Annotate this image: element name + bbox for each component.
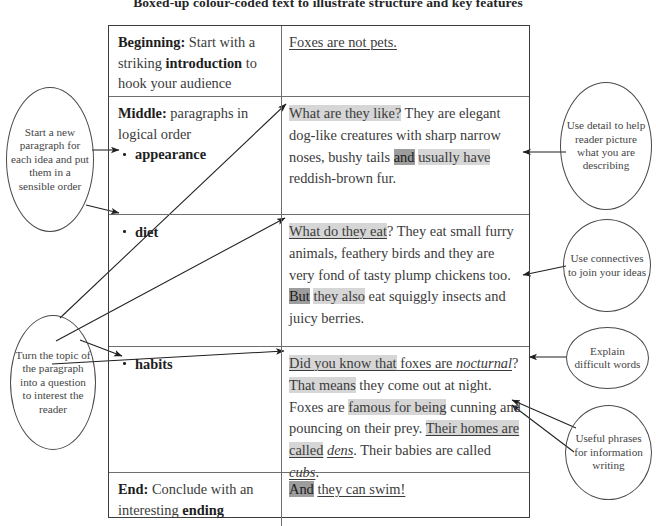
text-segment: Did you know that xyxy=(289,355,397,371)
callout-text: Useful phrases for information writing xyxy=(566,432,651,472)
segments-habits: Did you know that foxes are nocturnal? T… xyxy=(289,355,521,480)
label-rich-end: End: Conclude with an interesting ending xyxy=(118,481,254,518)
row-text-diet: What do they eat? They eat small furry a… xyxy=(282,215,529,346)
table-row: habits Did you know that foxes are noctu… xyxy=(109,347,529,473)
callout-turn-topic-into-question: Turn the topic of the paragraph into a q… xyxy=(10,315,96,450)
text-segment: Foxes are not pets. xyxy=(289,34,397,50)
text-segment: And xyxy=(289,481,314,497)
callout-text: Turn the topic of the paragraph into a q… xyxy=(11,349,95,416)
row-label-end: End: Conclude with an interesting ending xyxy=(109,473,282,526)
table-row: End: Conclude with an interesting ending… xyxy=(109,473,529,526)
row-text-end: And they can swim! xyxy=(282,473,529,526)
segments-beginning: Foxes are not pets. xyxy=(289,34,397,50)
label-rich-beginning: Beginning: Start with a striking introdu… xyxy=(118,34,257,91)
text-segment: they can swim! xyxy=(317,481,405,497)
text-segment: What do they eat xyxy=(289,223,387,239)
table-row: diet What do they eat? They eat small fu… xyxy=(109,215,529,347)
text-segment: they also xyxy=(313,288,365,304)
row-text-appearance: What are they like? They are elegant dog… xyxy=(282,97,529,214)
table-row: Beginning: Start with a striking introdu… xyxy=(109,26,529,97)
segments-appearance: What are they like? They are elegant dog… xyxy=(289,105,501,186)
callout-use-connectives: Use connectives to join your ideas xyxy=(563,219,651,312)
text-segment: reddish-brown fur. xyxy=(289,170,396,186)
sublabel-diet: diet xyxy=(118,221,274,243)
row-label-diet: diet xyxy=(109,215,282,346)
text-segment: nocturnal xyxy=(456,355,512,371)
callout-text: Explain difficult words xyxy=(567,345,648,372)
row-label-middle: Middle: paragraphs in logical order appe… xyxy=(109,97,282,214)
row-text-habits: Did you know that foxes are nocturnal? T… xyxy=(282,347,529,472)
table-row: Middle: paragraphs in logical order appe… xyxy=(109,97,529,215)
callout-use-detail: Use detail to help reader picture what y… xyxy=(560,82,652,210)
text-segment: usually have xyxy=(418,149,490,165)
text-segment: dens xyxy=(327,442,353,458)
callout-text: Start a new paragraph for each idea and … xyxy=(7,126,93,193)
callout-text: Use connectives to join your ideas xyxy=(564,252,650,279)
sublabel-habits: habits xyxy=(118,353,274,375)
row-label-beginning: Beginning: Start with a striking introdu… xyxy=(109,26,282,96)
text-segment: What are they like? xyxy=(289,105,401,121)
structure-table: Beginning: Start with a striking introdu… xyxy=(108,25,530,518)
callout-explain-difficult-words: Explain difficult words xyxy=(566,327,649,389)
text-segment: famous for being xyxy=(348,399,446,415)
text-segment: foxes are xyxy=(397,355,457,371)
row-label-habits: habits xyxy=(109,347,282,472)
text-segment: and xyxy=(394,149,415,165)
callout-start-new-paragraph: Start a new paragraph for each idea and … xyxy=(6,87,94,232)
text-segment: ? xyxy=(512,355,518,371)
callout-useful-phrases: Useful phrases for information writing xyxy=(565,405,652,500)
callout-text: Use detail to help reader picture what y… xyxy=(561,119,651,173)
segments-end: And they can swim! xyxy=(289,481,405,497)
text-segment: . Their babies are called xyxy=(353,442,491,458)
label-rich-middle: Middle: paragraphs in logical order xyxy=(118,105,248,142)
segments-diet: What do they eat? They eat small furry a… xyxy=(289,223,514,326)
text-segment: That means xyxy=(289,377,356,393)
row-text-beginning: Foxes are not pets. xyxy=(282,26,529,96)
sublabel-appearance: appearance xyxy=(118,144,274,165)
text-segment: But xyxy=(289,288,310,304)
